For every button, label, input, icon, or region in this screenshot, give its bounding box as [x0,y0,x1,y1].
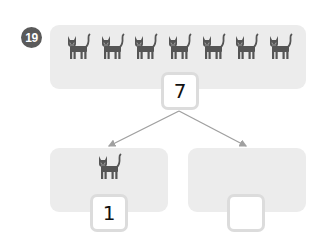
cat-icon [163,32,193,62]
cat-icon [93,152,123,182]
cat-icon [230,32,260,62]
left-part-cats [93,152,123,182]
left-part-number: 1 [103,201,116,225]
cat-icon [197,32,227,62]
cat-icon [129,32,159,62]
problem-number-badge: 19 [21,27,42,48]
right-part-answer-box[interactable] [227,194,265,232]
arrow-to-left-part [109,111,179,146]
left-part-number-box: 1 [90,194,128,232]
problem-number: 19 [25,31,37,45]
cat-icon [264,32,294,62]
cat-icon [62,32,92,62]
total-number: 7 [174,79,187,103]
cat-icon [96,32,126,62]
arrow-to-right-part [179,111,246,146]
total-number-box: 7 [161,72,199,110]
total-cats-row [62,32,294,64]
